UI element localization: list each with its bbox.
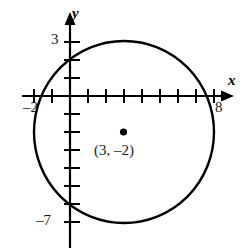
x-axis-arrowhead [221, 91, 234, 102]
coordinate-graph-figure: y x 3 –7 –2 8 (3, –2) [0, 0, 246, 248]
center-point-marker [120, 128, 127, 135]
center-point-label: (3, –2) [94, 143, 134, 158]
x-tick-label-minus-2: –2 [23, 100, 38, 115]
graph-canvas [0, 0, 246, 248]
y-tick-label-minus-7: –7 [36, 213, 51, 228]
x-tick-label-8: 8 [215, 100, 223, 115]
y-axis-ticks [64, 42, 80, 222]
y-tick-label-3: 3 [51, 32, 59, 47]
y-axis-label: y [72, 6, 79, 21]
x-axis-label: x [228, 73, 236, 88]
